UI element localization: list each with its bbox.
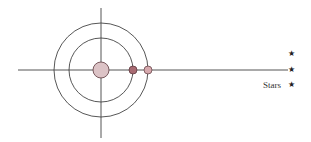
star-icon: ★ bbox=[288, 80, 295, 89]
orbit-diagram bbox=[0, 0, 311, 142]
inner-planet bbox=[129, 66, 137, 74]
stars-label: Stars bbox=[263, 80, 281, 90]
star-icon: ★ bbox=[288, 65, 295, 74]
central-body bbox=[93, 62, 109, 78]
outer-planet bbox=[144, 66, 152, 74]
star-icon: ★ bbox=[288, 49, 295, 58]
